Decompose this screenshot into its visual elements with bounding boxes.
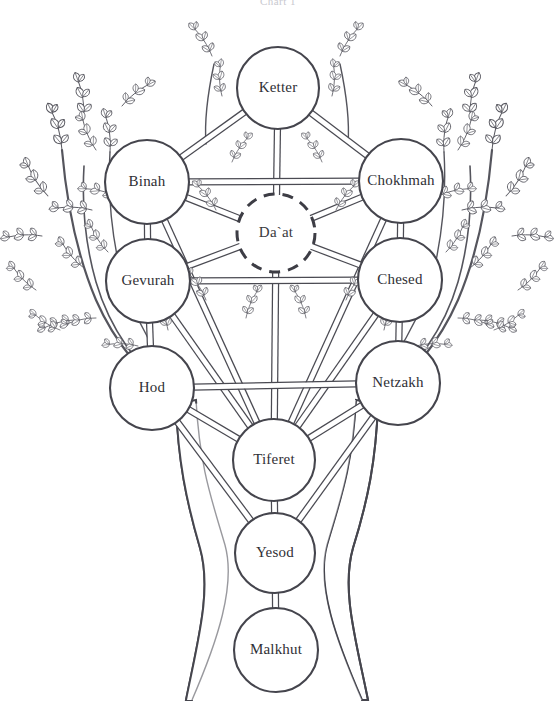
sefirot-path-ketter-to-binah bbox=[179, 109, 248, 161]
sefira-yesod[interactable]: Yesod bbox=[235, 513, 315, 593]
sefirot-path-gevurah-to-hod bbox=[147, 322, 154, 347]
twig-leaf-4 bbox=[62, 253, 70, 258]
path-rail-a bbox=[188, 184, 360, 185]
sefirot-path-daat-to-chesed bbox=[310, 244, 362, 269]
caption-text: Chart 1 bbox=[260, 0, 296, 7]
tree-svg-canvas: KetterBinahChokhmahDa`atGevurahChesedHod… bbox=[0, 0, 556, 728]
sefirot-path-tiferet-to-yesod bbox=[271, 500, 277, 514]
path-core bbox=[189, 280, 359, 281]
foliage-twig-18 bbox=[510, 216, 556, 257]
sefirot-path-binah-to-daat bbox=[184, 194, 242, 222]
path-core bbox=[312, 246, 362, 265]
twig-stem bbox=[484, 109, 511, 150]
clipped-page-caption: Chart 1 bbox=[0, 0, 556, 9]
foliage-twig-32 bbox=[187, 19, 217, 58]
foliage-twig-33 bbox=[201, 56, 239, 98]
twig-stem bbox=[244, 289, 261, 318]
sefira-tiferet[interactable]: Tiferet bbox=[233, 419, 315, 501]
path-core bbox=[180, 111, 245, 158]
sefira-hod[interactable]: Hod bbox=[110, 346, 194, 430]
twig-stem bbox=[42, 109, 69, 150]
path-rail-b bbox=[189, 277, 359, 278]
foliage-twig-41 bbox=[240, 284, 266, 319]
path-rail-b bbox=[188, 178, 360, 179]
path-rail-a bbox=[310, 194, 362, 216]
path-core bbox=[188, 181, 360, 182]
sefira-chesed[interactable]: Chesed bbox=[358, 238, 442, 322]
sefira-label-ketter: Ketter bbox=[259, 79, 298, 95]
path-rail-a bbox=[179, 109, 244, 156]
path-rail-b bbox=[187, 249, 241, 269]
sefira-label-hod: Hod bbox=[139, 379, 166, 395]
twig-stem bbox=[493, 313, 522, 330]
sefira-daat[interactable]: Da`at bbox=[237, 194, 315, 272]
sefira-label-malkhut: Malkhut bbox=[250, 641, 303, 657]
foliage-twig-43 bbox=[286, 284, 312, 319]
path-core bbox=[274, 271, 275, 420]
foliage-twig-26 bbox=[396, 69, 436, 115]
foliage-twig-23 bbox=[462, 234, 506, 272]
path-rail-a bbox=[185, 244, 239, 264]
twig-stem bbox=[291, 289, 308, 318]
sefira-ketter[interactable]: Ketter bbox=[237, 47, 319, 129]
sefira-label-netzakh: Netzakh bbox=[372, 374, 424, 390]
foliage-twig-39 bbox=[300, 130, 326, 164]
path-rail-b bbox=[186, 194, 242, 216]
foliage-twig-34 bbox=[336, 19, 366, 58]
sefirot-path-chesed-to-netzakh bbox=[396, 321, 402, 342]
tree-of-life-diagram: Chart 1 bbox=[0, 0, 556, 728]
foliage-twig-17 bbox=[494, 154, 544, 200]
foliage-twig-10 bbox=[118, 69, 158, 115]
path-core bbox=[150, 322, 151, 347]
sefira-label-binah: Binah bbox=[129, 173, 166, 189]
sefirot-path-gevurah-to-chesed bbox=[189, 277, 359, 284]
path-core bbox=[193, 384, 357, 387]
sefira-label-daat: Da`at bbox=[259, 224, 294, 240]
path-core bbox=[186, 246, 240, 266]
sefira-label-tiferet: Tiferet bbox=[253, 451, 295, 467]
foliage-twig-0 bbox=[36, 101, 77, 151]
foliage-twig-13 bbox=[58, 305, 97, 337]
path-rail-b bbox=[312, 110, 370, 154]
foliage-twig-7 bbox=[48, 234, 92, 272]
sefirot-path-daat-to-tiferet bbox=[271, 271, 278, 420]
path-core bbox=[310, 112, 368, 156]
sefira-label-gevurah: Gevurah bbox=[121, 272, 174, 288]
foliage-twig-29 bbox=[457, 305, 496, 337]
sefira-label-chokhmah: Chokhmah bbox=[367, 172, 435, 188]
sefirot-path-binah-to-chokhmah bbox=[188, 178, 360, 185]
sefira-gevurah[interactable]: Gevurah bbox=[106, 239, 190, 323]
sefira-binah[interactable]: Binah bbox=[105, 140, 189, 224]
foliage-twig-37 bbox=[228, 130, 254, 164]
twig-stem bbox=[42, 314, 74, 335]
sefirot-path-chokhmah-to-chesed bbox=[397, 222, 403, 239]
foliage-twig-16 bbox=[477, 101, 518, 151]
twig-leaf-6 bbox=[540, 266, 547, 270]
sefirot-path-ketter-to-chokhmah bbox=[308, 110, 370, 159]
path-rail-a bbox=[189, 283, 359, 284]
twig-leaf-4 bbox=[484, 253, 492, 258]
foliage-twig-35 bbox=[315, 56, 353, 98]
twig-stem bbox=[32, 313, 61, 330]
sefirot-path-daat-to-gevurah bbox=[185, 244, 241, 270]
twig-leaf-6 bbox=[6, 266, 13, 270]
sefira-malkhut[interactable]: Malkhut bbox=[234, 608, 318, 692]
foliage-twig-19 bbox=[511, 259, 553, 294]
twig-stem bbox=[432, 114, 461, 152]
sefira-label-chesed: Chesed bbox=[377, 271, 423, 287]
twig-stem bbox=[480, 314, 512, 335]
foliage-twig-3 bbox=[1, 259, 43, 294]
sefira-netzakh[interactable]: Netzakh bbox=[356, 341, 440, 425]
twig-stem bbox=[93, 114, 122, 152]
sefira-chokhmah[interactable]: Chokhmah bbox=[359, 139, 443, 223]
sefira-label-yesod: Yesod bbox=[256, 544, 294, 560]
foliage-twig-1 bbox=[10, 154, 60, 200]
sefirot-path-binah-to-gevurah bbox=[144, 223, 150, 240]
sefirot-path-yesod-to-malkhut bbox=[272, 592, 278, 609]
foliage-twig-2 bbox=[0, 216, 44, 257]
